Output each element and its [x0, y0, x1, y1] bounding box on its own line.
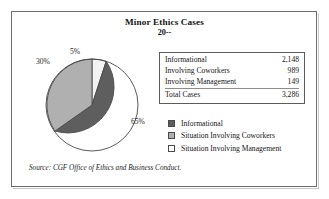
- table-cell-total-value: 3,286: [273, 88, 299, 100]
- table-cell-label: Involving Coworkers: [165, 66, 273, 77]
- legend-item-informational: Informational: [168, 117, 318, 130]
- pie-chart-svg: [44, 57, 140, 153]
- pie-label-management: 5%: [70, 47, 80, 56]
- table-row-total: Total Cases 3,286: [165, 88, 299, 100]
- table-cell-value: 989: [273, 66, 299, 77]
- pie-label-coworkers: 30%: [36, 57, 50, 66]
- table-cell-label: Involving Management: [165, 77, 273, 88]
- table-row: Informational 2,148: [165, 55, 299, 66]
- table-row: Involving Coworkers 989: [165, 66, 299, 77]
- pie-label-informational: 65%: [131, 117, 145, 126]
- chart-title: Minor Ethics Cases: [0, 17, 329, 27]
- legend-item-label: Informational: [181, 119, 223, 128]
- table-cell-value: 149: [273, 77, 299, 88]
- legend-item-label: Situation Involving Management: [181, 144, 281, 153]
- table-cell-label: Informational: [165, 55, 273, 66]
- data-table: Informational 2,148 Involving Coworkers …: [159, 52, 305, 104]
- data-table-grid: Informational 2,148 Involving Coworkers …: [165, 55, 299, 100]
- source-note: Source: CGF Office of Ethics and Busines…: [29, 164, 181, 172]
- figure-container: Minor Ethics Cases 20-- 5% 30% 65% Infor…: [0, 0, 329, 199]
- legend-item-label: Situation Involving Coworkers: [181, 131, 275, 140]
- table-cell-value: 2,148: [273, 55, 299, 66]
- pie-chart: [44, 57, 140, 153]
- legend-swatch-icon: [168, 145, 175, 152]
- legend-item-coworkers: Situation Involving Coworkers: [168, 130, 318, 143]
- legend-swatch-icon: [168, 132, 175, 139]
- table-cell-total-label: Total Cases: [165, 88, 273, 100]
- table-row: Involving Management 149: [165, 77, 299, 88]
- legend-item-management: Situation Involving Management: [168, 142, 318, 155]
- legend-swatch-icon: [168, 120, 175, 127]
- chart-subtitle: 20--: [0, 28, 329, 37]
- chart-legend: Informational Situation Involving Cowork…: [168, 117, 318, 155]
